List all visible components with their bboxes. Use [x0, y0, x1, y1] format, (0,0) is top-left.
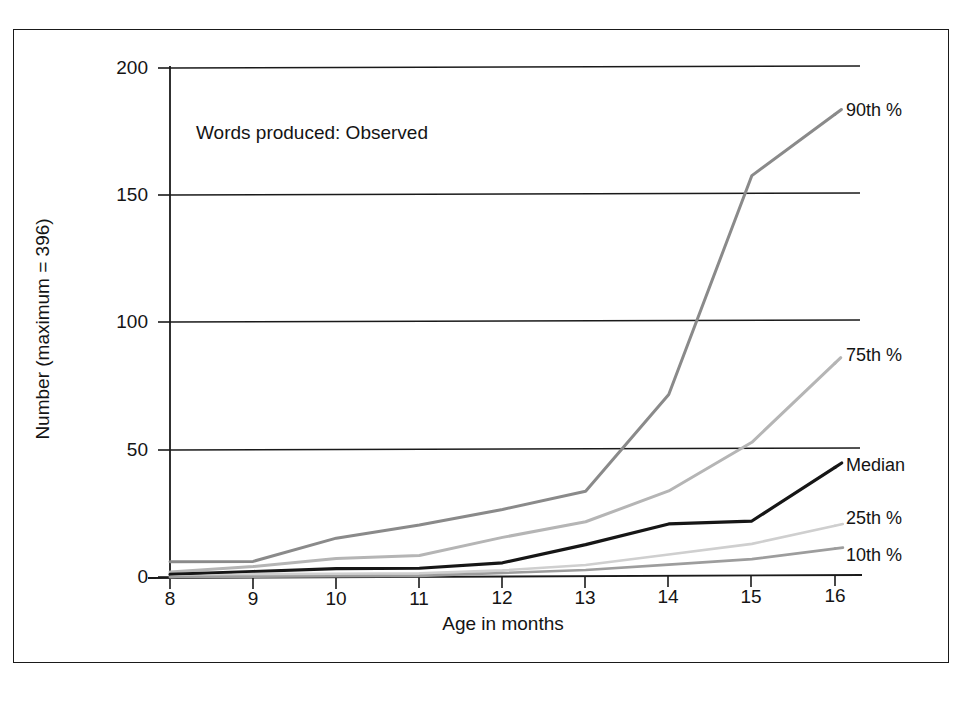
series-leader-75th	[835, 358, 841, 364]
x-tick-label-10: 10	[316, 588, 356, 610]
x-tick-label-15: 15	[731, 586, 771, 608]
y-axis-ticks	[158, 68, 170, 577]
y-tick-label-0: 0	[88, 566, 148, 588]
series-leader-25th	[835, 524, 843, 526]
series-label-90th: 90th %	[846, 100, 902, 121]
x-axis-title: Age in months	[170, 613, 836, 635]
y-tick-label-100: 100	[88, 311, 148, 333]
series-label-10th: 10th %	[846, 545, 902, 566]
x-tick-label-12: 12	[482, 587, 522, 609]
series-label-25th: 25th %	[846, 508, 902, 529]
series-line-90th	[170, 114, 835, 562]
y-tick-label-50: 50	[88, 439, 148, 461]
x-tick-label-16: 16	[815, 585, 855, 607]
chart-title: Words produced: Observed	[196, 122, 428, 144]
series-leader-median	[835, 463, 842, 467]
y-axis-title: Number (maximum = 396)	[32, 179, 54, 479]
series-leader-90th	[835, 110, 841, 115]
x-tick-label-14: 14	[648, 586, 688, 608]
series-label-median: Median	[846, 455, 905, 476]
x-tick-label-8: 8	[150, 588, 190, 610]
x-tick-label-9: 9	[233, 588, 273, 610]
figure-container: 200 150 100 50 0 8 9 10 11 12 13 14 15 1…	[0, 0, 977, 701]
series-line-75th	[170, 363, 835, 572]
y-tick-label-200: 200	[88, 57, 148, 79]
series-label-75th: 75th %	[846, 345, 902, 366]
y-tick-label-150: 150	[88, 184, 148, 206]
x-tick-label-11: 11	[399, 588, 439, 610]
series-leader-10th	[835, 548, 843, 549]
series-line-25th	[170, 526, 835, 577]
series-line-median	[170, 467, 835, 574]
data-series-group	[170, 110, 843, 577]
x-tick-label-13: 13	[565, 587, 605, 609]
